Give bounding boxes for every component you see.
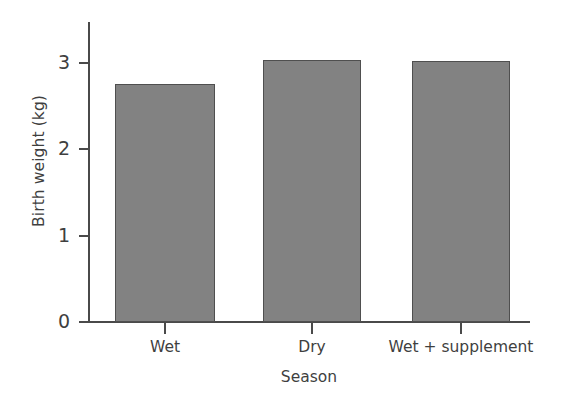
y-tick-mark-3 [79, 62, 90, 64]
y-axis-line [88, 22, 90, 323]
x-tick-label-wet: Wet [150, 338, 180, 356]
y-tick-mark-1 [79, 235, 90, 237]
bar-wet-supplement [412, 61, 510, 322]
bar-chart-figure: Birth weight (kg) 0 1 2 3 Wet Dry Wet + … [0, 0, 563, 411]
x-tick-mark-0 [164, 323, 166, 334]
y-tick-label-0: 0 [8, 312, 70, 331]
x-tick-label-dry: Dry [298, 338, 325, 356]
y-tick-mark-0 [79, 321, 90, 323]
y-tick-mark-2 [79, 148, 90, 150]
x-tick-mark-1 [311, 323, 313, 334]
bar-wet [115, 84, 215, 322]
y-tick-label-2: 2 [8, 139, 70, 158]
y-axis-title: Birth weight (kg) [22, 0, 56, 322]
y-tick-label-3: 3 [8, 53, 70, 72]
bar-dry [263, 60, 361, 322]
x-tick-label-wet-supplement: Wet + supplement [389, 338, 534, 356]
y-tick-label-1: 1 [8, 226, 70, 245]
x-axis-title: Season [88, 368, 530, 386]
x-tick-mark-2 [460, 323, 462, 334]
